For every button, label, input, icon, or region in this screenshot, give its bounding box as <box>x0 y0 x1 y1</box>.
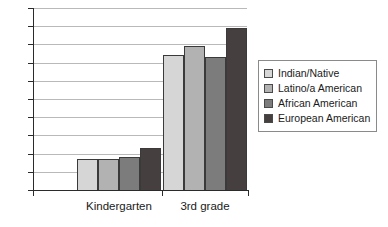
legend-label: European American <box>278 113 370 124</box>
bar <box>184 46 205 190</box>
legend-swatch <box>264 84 273 93</box>
plot-area <box>33 8 247 190</box>
legend-item[interactable]: European American <box>264 111 370 126</box>
x-axis-tick <box>248 190 249 196</box>
bar <box>140 148 161 190</box>
x-axis-tick <box>162 190 163 196</box>
legend-item[interactable]: African American <box>264 96 370 111</box>
bar-group <box>77 8 161 190</box>
bar <box>119 157 140 190</box>
x-axis-line <box>33 190 248 191</box>
legend-item[interactable]: Latino/a American <box>264 81 370 96</box>
bar <box>226 28 247 190</box>
legend-swatch <box>264 99 273 108</box>
legend-swatch <box>264 69 273 78</box>
legend-swatch <box>264 114 273 123</box>
bar <box>205 57 226 190</box>
y-axis-line <box>33 8 34 191</box>
x-axis-category-label: 3rd grade <box>145 200 265 213</box>
legend: Indian/NativeLatino/a AmericanAfrican Am… <box>258 60 377 132</box>
bar-chart: 0102030405060708090100 Kindergarten3rd g… <box>0 0 388 227</box>
bar <box>98 159 119 190</box>
bar <box>77 159 98 190</box>
legend-label: Indian/Native <box>278 68 339 79</box>
legend-label: African American <box>278 98 357 109</box>
legend-label: Latino/a American <box>278 83 362 94</box>
bar <box>163 55 184 190</box>
bar-group <box>163 8 247 190</box>
x-axis-tick <box>33 190 34 196</box>
legend-item[interactable]: Indian/Native <box>264 66 370 81</box>
